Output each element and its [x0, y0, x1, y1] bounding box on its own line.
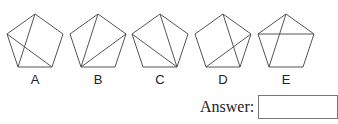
pentagon-diagonal	[269, 14, 286, 67]
pentagon-outline	[258, 14, 314, 67]
pentagon-diagonal	[81, 34, 126, 67]
pentagon-diagonal	[160, 14, 177, 67]
pentagon-option-d	[195, 14, 251, 67]
pentagon-option-e	[258, 14, 314, 67]
answer-label: Answer:	[200, 98, 254, 116]
pentagon-option-c	[132, 14, 188, 67]
pentagon-diagonal	[81, 14, 98, 67]
option-label-e: E	[276, 72, 296, 88]
answer-input-box[interactable]	[258, 95, 338, 119]
pentagon-diagonal	[206, 34, 251, 67]
pentagon-diagonal	[223, 14, 240, 67]
option-label-b: B	[88, 72, 108, 88]
option-label-d: D	[213, 72, 233, 88]
pentagon-option-a	[7, 14, 63, 67]
option-label-c: C	[150, 72, 170, 88]
pentagon-diagonal	[18, 14, 35, 67]
option-label-a: A	[25, 72, 45, 88]
pentagon-diagonal	[132, 34, 177, 67]
pentagon-diagonal	[7, 34, 52, 67]
pentagon-option-b	[70, 14, 126, 67]
